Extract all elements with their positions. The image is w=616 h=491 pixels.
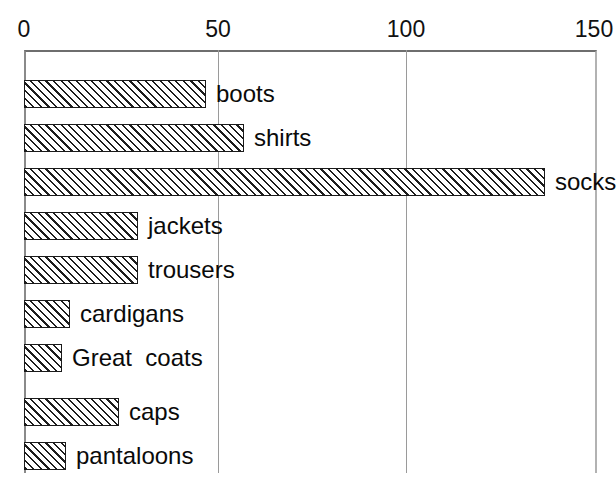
bar-shirts bbox=[24, 124, 244, 152]
x-tick-label-100: 100 bbox=[387, 16, 425, 42]
bar-boots bbox=[24, 80, 206, 108]
gridline-100 bbox=[406, 50, 407, 473]
bar-label-pantaloons: pantaloons bbox=[76, 442, 193, 470]
bar-label-great-coats: Great coats bbox=[72, 344, 203, 372]
bar-great-coats bbox=[24, 344, 62, 372]
bar-label-socks: socks bbox=[555, 168, 616, 196]
bar-jackets bbox=[24, 212, 138, 240]
bar-label-shirts: shirts bbox=[254, 124, 311, 152]
x-tick-label-0: 0 bbox=[18, 16, 31, 42]
bar-label-jackets: jackets bbox=[148, 212, 223, 240]
horizontal-bar-chart: 0 50 100 150 boots shirts socks jackets … bbox=[0, 0, 616, 491]
bar-cardigans bbox=[24, 300, 70, 328]
bar-caps bbox=[24, 398, 119, 426]
bar-pantaloons bbox=[24, 442, 66, 470]
bar-label-trousers: trousers bbox=[148, 256, 235, 284]
x-tick-label-50: 50 bbox=[205, 16, 231, 42]
bar-label-caps: caps bbox=[129, 398, 180, 426]
chart-title-clipped bbox=[0, 0, 616, 14]
bar-label-cardigans: cardigans bbox=[80, 300, 184, 328]
bar-trousers bbox=[24, 256, 138, 284]
bar-label-boots: boots bbox=[216, 80, 275, 108]
x-tick-label-150: 150 bbox=[575, 16, 613, 42]
bar-socks bbox=[24, 168, 545, 196]
